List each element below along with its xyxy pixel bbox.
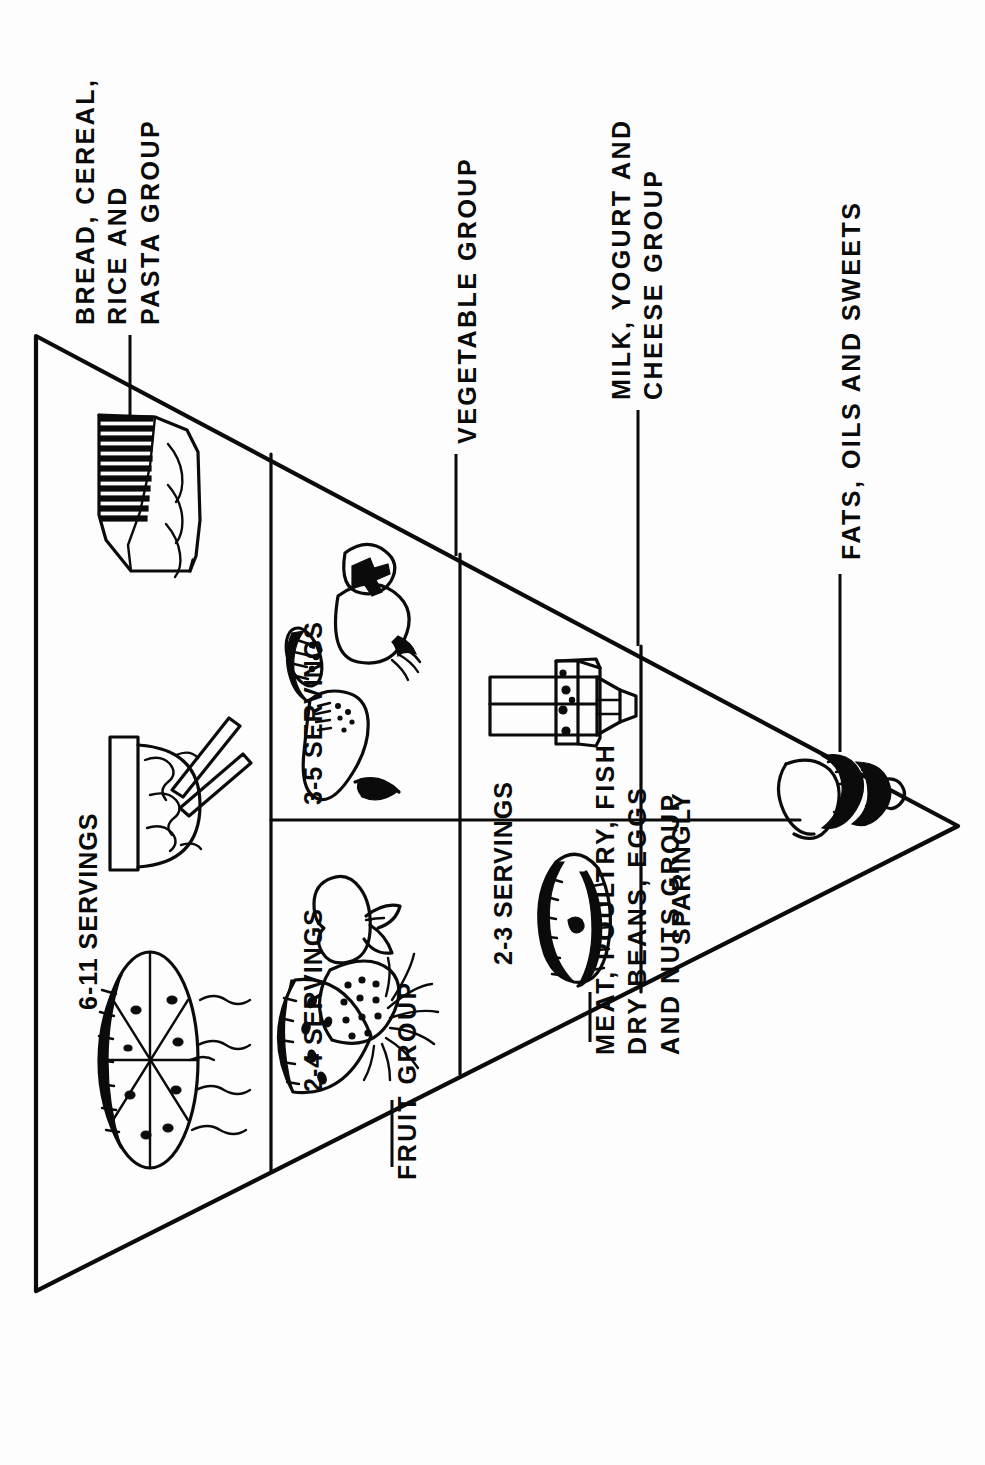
servings-grain: 6-11 SERVINGS (75, 813, 101, 1010)
leader-lines (130, 335, 840, 1167)
label-fats-line1: FATS, OILS AND SWEETS (838, 201, 864, 560)
rice-bowl-chopsticks-icon (110, 718, 251, 870)
bread-loaf-icon (99, 415, 200, 577)
label-vegetable-line1: VEGETABLE GROUP (454, 157, 480, 444)
label-bread-line2: RICE AND (104, 77, 130, 325)
label-milk-yogurt-cheese: MILK, YOGURT AND CHEESE GROUP (608, 118, 667, 400)
label-milk-line1: MILK, YOGURT AND (608, 118, 634, 400)
figure-canvas: .ln { stroke:#0b0b0b; fill:none; stroke-… (0, 0, 985, 1465)
pie-slice-wheel-icon (99, 952, 250, 1168)
broccoli-icon (336, 544, 421, 680)
label-meat-line2: DRY BEANS, EGGS (624, 743, 650, 1055)
label-meat-line1: MEAT, POULTRY, FISH (592, 743, 618, 1055)
label-bread-line3: PASTA GROUP (137, 77, 163, 325)
label-bread-cereal-rice-pasta: BREAD, CEREAL, RICE AND PASTA GROUP (72, 77, 163, 325)
label-fruit-group: FRUIT GROUP (394, 980, 420, 1180)
label-fats-oils-sweets: FATS, OILS AND SWEETS (838, 201, 864, 560)
label-fruit-line1: FRUIT GROUP (394, 980, 420, 1180)
servings-milk: 2-3 SERVINGS (490, 781, 516, 965)
servings-sparingly: SPARINGLY (668, 792, 694, 945)
label-milk-line2: CHEESE GROUP (640, 118, 666, 400)
label-bread-line1: BREAD, CEREAL, (72, 77, 98, 325)
pyramid-dividers (271, 454, 800, 1170)
ice-cream-cone-icon (778, 755, 904, 839)
label-vegetable-group: VEGETABLE GROUP (454, 157, 480, 444)
servings-vegetable: 3-5 SERVINGS (300, 621, 326, 805)
servings-fruit: 2-4 SERVINGS (300, 908, 326, 1092)
